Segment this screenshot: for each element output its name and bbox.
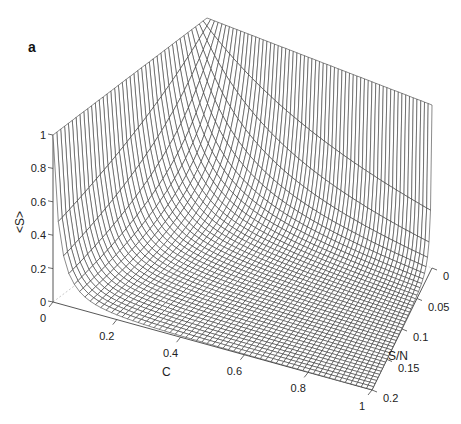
- z-axis-label: <S>: [13, 211, 27, 233]
- x-axis-label: C: [162, 365, 171, 379]
- y-tick-label: 0.15: [398, 362, 419, 374]
- z-tick-label: 1: [40, 129, 46, 141]
- y-tick-label: 0: [443, 270, 449, 282]
- x-tick: [177, 337, 181, 342]
- surface-plot: a 00.20.40.60.8100.20.40.60.8100.050.10.…: [0, 0, 461, 424]
- y-tick-label: 0.05: [428, 301, 449, 313]
- y-axis-label: S/N: [388, 349, 408, 363]
- y-tick: [402, 329, 407, 331]
- x-tick-label: 0.2: [99, 330, 114, 342]
- x-tick: [240, 355, 244, 360]
- x-tick: [368, 390, 372, 395]
- z-tick-label: 0.8: [31, 162, 46, 174]
- z-tick: [48, 234, 53, 235]
- x-tick-label: 0: [40, 312, 46, 324]
- z-tick: [48, 268, 53, 269]
- y-tick: [417, 299, 422, 301]
- z-tick: [48, 201, 53, 202]
- x-tick: [113, 320, 117, 325]
- x-tick: [304, 372, 308, 377]
- x-tick: [49, 302, 53, 307]
- y-tick-label: 0.2: [383, 392, 398, 404]
- y-tick: [432, 268, 437, 270]
- x-tick-label: 0.6: [227, 365, 242, 377]
- z-tick-label: 0.6: [31, 196, 46, 208]
- x-tick-label: 1: [359, 400, 365, 412]
- z-tick-label: 0.2: [31, 263, 46, 275]
- panel-label: a: [28, 39, 36, 55]
- z-tick-label: 0.4: [31, 229, 46, 241]
- x-tick-label: 0.8: [291, 382, 306, 394]
- y-tick-label: 0.1: [413, 331, 428, 343]
- x-tick-label: 0.4: [163, 347, 178, 359]
- z-tick: [48, 301, 53, 302]
- z-tick: [48, 134, 53, 135]
- z-tick-label: 0: [40, 296, 46, 308]
- y-tick: [372, 390, 377, 392]
- z-tick: [48, 167, 53, 168]
